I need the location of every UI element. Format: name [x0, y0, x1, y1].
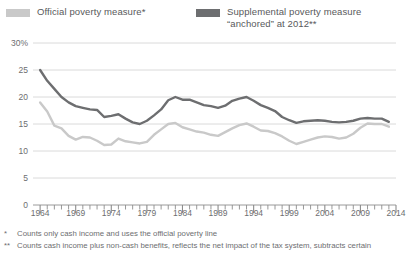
- chart-canvas: [0, 34, 416, 220]
- x-axis-tick-label: 1999: [280, 208, 299, 218]
- footnotes: * Counts only cash income and uses the o…: [4, 228, 414, 252]
- legend-label-official: Official poverty measure*: [37, 6, 145, 18]
- footnote-2: ** Counts cash income plus non-cash bene…: [4, 240, 414, 252]
- legend-swatch-supplemental-icon: [196, 9, 220, 17]
- footnote-2-mark: **: [4, 240, 17, 252]
- plot-area: 051015202530%: [0, 34, 416, 220]
- x-axis-tick-label: 2009: [351, 208, 370, 218]
- x-axis-tick-label: 1974: [102, 208, 121, 218]
- legend-item-supplemental: Supplemental poverty measure “anchored” …: [196, 6, 361, 29]
- x-axis-tick-label: 2004: [315, 208, 334, 218]
- footnote-1: * Counts only cash income and uses the o…: [4, 228, 414, 240]
- data-lines: [40, 70, 389, 145]
- footnote-1-text: Counts only cash income and uses the off…: [17, 228, 414, 240]
- x-axis-tick-labels: 1964196919741979198419891994199920042009…: [0, 208, 416, 222]
- footnote-1-mark: *: [4, 228, 17, 240]
- x-axis-tick-label: 1989: [209, 208, 228, 218]
- y-gridlines: [33, 43, 396, 205]
- legend-swatch-official-icon: [6, 9, 30, 17]
- poverty-chart-figure: Official poverty measure* Supplemental p…: [0, 0, 416, 258]
- chart-legend: Official poverty measure* Supplemental p…: [0, 4, 416, 34]
- x-axis-tick-label: 1964: [31, 208, 50, 218]
- x-axis-tick-label: 1969: [66, 208, 85, 218]
- x-axis-tick-label: 1979: [137, 208, 156, 218]
- x-axis-tick-label: 2014: [387, 208, 406, 218]
- legend-item-official: Official poverty measure*: [6, 6, 145, 18]
- legend-label-supplemental: Supplemental poverty measure “anchored” …: [227, 6, 361, 29]
- x-axis-tick-label: 1984: [173, 208, 192, 218]
- x-axis-tick-label: 1994: [244, 208, 263, 218]
- footnote-2-text: Counts cash income plus non-cash benefit…: [17, 240, 414, 252]
